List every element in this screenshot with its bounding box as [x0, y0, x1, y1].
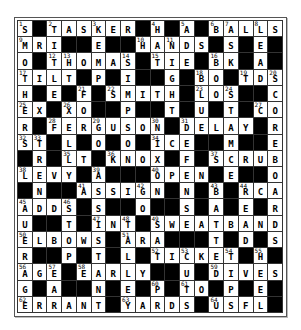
grid-cell[interactable]: O: [18, 53, 33, 69]
grid-cell[interactable]: L: [33, 232, 48, 248]
grid-cell[interactable]: 39A: [92, 167, 107, 183]
grid-cell[interactable]: 37S: [209, 151, 224, 167]
grid-cell[interactable]: D: [268, 216, 283, 232]
grid-cell[interactable]: 33T: [33, 135, 48, 151]
grid-cell[interactable]: R: [33, 37, 48, 53]
grid-cell[interactable]: A: [151, 232, 166, 248]
grid-cell[interactable]: A: [195, 216, 210, 232]
grid-cell[interactable]: S: [268, 264, 283, 280]
grid-cell[interactable]: S: [224, 297, 239, 313]
grid-cell[interactable]: E: [254, 37, 269, 53]
grid-cell[interactable]: G: [33, 264, 48, 280]
grid-cell[interactable]: F: [239, 297, 254, 313]
grid-cell[interactable]: A: [47, 281, 62, 297]
grid-cell[interactable]: L: [239, 21, 254, 37]
grid-cell[interactable]: I: [165, 53, 180, 69]
grid-cell[interactable]: N: [106, 216, 121, 232]
grid-cell[interactable]: E: [239, 199, 254, 215]
grid-cell[interactable]: 4H: [151, 21, 166, 37]
grid-cell[interactable]: S: [92, 199, 107, 215]
grid-cell[interactable]: T: [151, 86, 166, 102]
grid-cell[interactable]: B: [224, 216, 239, 232]
grid-cell[interactable]: I: [121, 70, 136, 86]
grid-cell[interactable]: N: [180, 183, 195, 199]
grid-cell[interactable]: S: [121, 118, 136, 134]
grid-cell[interactable]: M: [121, 86, 136, 102]
grid-cell[interactable]: R: [268, 118, 283, 134]
grid-cell[interactable]: 8L: [254, 21, 269, 37]
grid-cell[interactable]: E: [254, 281, 269, 297]
grid-cell[interactable]: 48T: [121, 216, 136, 232]
grid-cell[interactable]: E: [47, 86, 62, 102]
grid-cell[interactable]: 64U: [209, 297, 224, 313]
grid-cell[interactable]: N: [77, 297, 92, 313]
grid-cell[interactable]: 27C: [254, 102, 269, 118]
grid-cell[interactable]: L: [121, 264, 136, 280]
grid-cell[interactable]: 17T: [18, 70, 33, 86]
grid-cell[interactable]: A: [62, 21, 77, 37]
grid-cell[interactable]: F: [180, 151, 195, 167]
grid-cell[interactable]: S: [195, 37, 210, 53]
grid-cell[interactable]: P: [121, 102, 136, 118]
grid-cell[interactable]: E: [180, 135, 195, 151]
grid-cell[interactable]: 28F: [47, 118, 62, 134]
grid-cell[interactable]: 36K: [106, 151, 121, 167]
grid-cell[interactable]: E: [195, 118, 210, 134]
grid-cell[interactable]: W: [165, 216, 180, 232]
grid-cell[interactable]: I: [33, 70, 48, 86]
grid-cell[interactable]: R: [106, 264, 121, 280]
grid-cell[interactable]: A: [151, 37, 166, 53]
grid-cell[interactable]: N: [254, 216, 269, 232]
grid-cell[interactable]: R: [77, 118, 92, 134]
grid-cell[interactable]: E: [224, 167, 239, 183]
grid-cell[interactable]: O: [121, 135, 136, 151]
grid-cell[interactable]: 59D: [209, 264, 224, 280]
grid-cell[interactable]: K: [224, 53, 239, 69]
grid-cell[interactable]: H: [165, 86, 180, 102]
grid-cell[interactable]: E: [180, 167, 195, 183]
grid-cell[interactable]: R: [33, 151, 48, 167]
grid-cell[interactable]: 16B: [209, 53, 224, 69]
grid-cell[interactable]: L: [62, 135, 77, 151]
grid-cell[interactable]: R: [18, 248, 33, 264]
grid-cell[interactable]: 19T: [239, 70, 254, 86]
grid-cell[interactable]: S: [268, 232, 283, 248]
grid-cell[interactable]: E: [209, 248, 224, 264]
grid-cell[interactable]: N: [33, 183, 48, 199]
grid-cell[interactable]: S: [268, 21, 283, 37]
grid-cell[interactable]: N: [151, 183, 166, 199]
grid-cell[interactable]: T: [62, 70, 77, 86]
grid-cell[interactable]: L: [121, 248, 136, 264]
grid-cell[interactable]: A: [268, 183, 283, 199]
grid-cell[interactable]: E: [92, 37, 107, 53]
grid-cell[interactable]: E: [254, 264, 269, 280]
grid-cell[interactable]: D: [239, 232, 254, 248]
grid-cell[interactable]: E: [180, 216, 195, 232]
grid-cell[interactable]: X: [33, 102, 48, 118]
grid-cell[interactable]: S: [180, 297, 195, 313]
grid-cell[interactable]: 53C: [180, 248, 195, 264]
grid-cell[interactable]: K: [195, 248, 210, 264]
grid-cell[interactable]: H: [18, 86, 33, 102]
grid-cell[interactable]: 51A: [121, 232, 136, 248]
grid-cell[interactable]: O: [209, 70, 224, 86]
grid-cell[interactable]: T: [62, 216, 77, 232]
grid-cell[interactable]: M: [224, 135, 239, 151]
grid-cell[interactable]: G: [165, 70, 180, 86]
grid-cell[interactable]: O: [62, 232, 77, 248]
grid-cell[interactable]: 54T: [224, 248, 239, 264]
grid-cell[interactable]: D: [165, 297, 180, 313]
grid-cell[interactable]: T: [209, 232, 224, 248]
grid-cell[interactable]: 15T: [151, 53, 166, 69]
grid-cell[interactable]: U: [106, 118, 121, 134]
grid-cell[interactable]: 60P: [151, 281, 166, 297]
grid-cell[interactable]: E: [106, 21, 121, 37]
grid-cell[interactable]: 34I: [151, 135, 166, 151]
grid-cell[interactable]: P: [92, 70, 107, 86]
grid-cell[interactable]: I: [165, 248, 180, 264]
grid-cell[interactable]: 26X: [62, 102, 77, 118]
grid-cell[interactable]: S: [77, 21, 92, 37]
grid-cell[interactable]: G: [18, 281, 33, 297]
grid-cell[interactable]: 12T: [47, 53, 62, 69]
grid-cell[interactable]: 7A: [224, 21, 239, 37]
